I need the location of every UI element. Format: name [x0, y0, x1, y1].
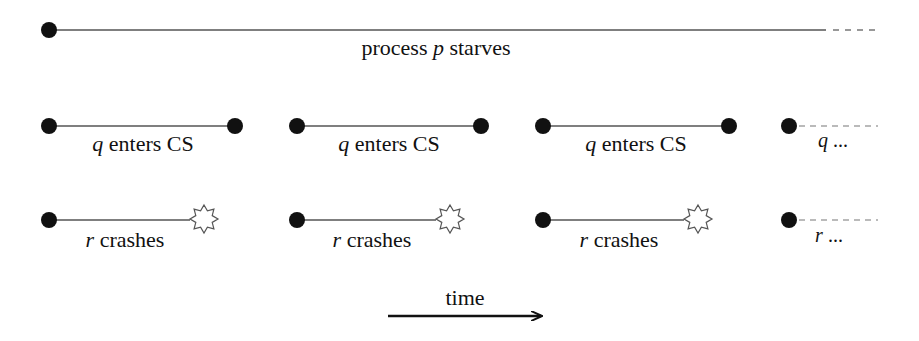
crash-star-icon: [436, 205, 464, 233]
q-label-2: q enters CS: [338, 133, 439, 155]
r-label-1: r crashes: [86, 229, 165, 251]
dot-icon: [473, 118, 489, 134]
dot-icon: [41, 118, 57, 134]
dot-icon: [721, 118, 737, 134]
dot-icon: [41, 212, 57, 228]
q-label-1: q enters CS: [92, 133, 193, 155]
r-tail-label: r ...: [815, 225, 843, 245]
crash-star-icon: [684, 205, 712, 233]
q-label-3: q enters CS: [585, 133, 686, 155]
dot-icon: [289, 118, 305, 134]
starve-label: process p starves: [361, 37, 510, 59]
dot-icon: [227, 118, 243, 134]
crash-star-icon: [190, 205, 218, 233]
dot-icon: [781, 212, 797, 228]
q-tail-label: q ...: [818, 130, 848, 150]
start-dot-icon: [41, 22, 57, 38]
time-label: time: [445, 287, 484, 309]
dot-icon: [535, 212, 551, 228]
dot-icon: [535, 118, 551, 134]
r-row: [41, 205, 878, 233]
dot-icon: [781, 118, 797, 134]
r-label-2: r crashes: [333, 229, 412, 251]
dot-icon: [289, 212, 305, 228]
r-label-3: r crashes: [580, 229, 659, 251]
